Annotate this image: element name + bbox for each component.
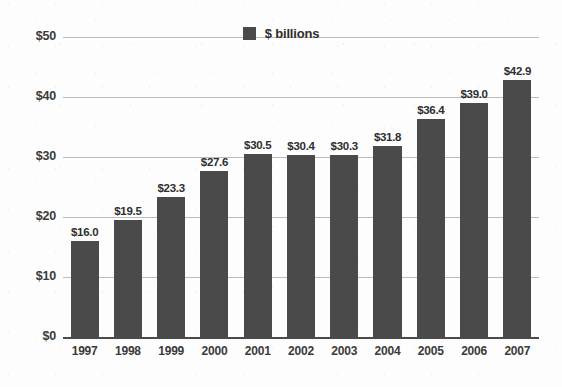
y-tick-label: $30 xyxy=(12,149,56,163)
x-tick-label: 2001 xyxy=(236,344,279,358)
bar[interactable] xyxy=(244,154,272,337)
bar-value-label: $30.4 xyxy=(287,140,314,152)
bar[interactable] xyxy=(200,171,228,337)
x-tick-label: 2000 xyxy=(193,344,236,358)
x-tick-label: 2007 xyxy=(496,344,539,358)
y-tick-label: $10 xyxy=(12,269,56,283)
bar-value-label: $42.9 xyxy=(504,65,531,77)
x-tick-label: 2003 xyxy=(323,344,366,358)
x-tick-label: 2006 xyxy=(452,344,495,358)
bar[interactable] xyxy=(71,241,99,337)
y-tick-label: $50 xyxy=(12,29,56,43)
bar-group[interactable]: $31.8 xyxy=(366,0,409,337)
x-axis: 1997199819992000200120022003200420052006… xyxy=(63,344,539,366)
bar-group[interactable]: $30.3 xyxy=(323,0,366,337)
x-tick-label: 2004 xyxy=(366,344,409,358)
bar-value-label: $23.3 xyxy=(158,182,185,194)
x-tick-label: 1998 xyxy=(106,344,149,358)
y-axis: $0$10$20$30$40$50 xyxy=(0,0,56,387)
bar[interactable] xyxy=(460,103,488,337)
bar[interactable] xyxy=(114,220,142,337)
bar-value-label: $19.5 xyxy=(114,205,141,217)
x-tick-label: 2002 xyxy=(279,344,322,358)
bar[interactable] xyxy=(157,197,185,337)
bars-layer: $16.0$19.5$23.3$27.6$30.5$30.4$30.3$31.8… xyxy=(63,0,539,337)
bar-value-label: $36.4 xyxy=(417,104,444,116)
bar-group[interactable]: $42.9 xyxy=(496,0,539,337)
bar-group[interactable]: $19.5 xyxy=(106,0,149,337)
x-tick-label: 1997 xyxy=(63,344,106,358)
bar[interactable] xyxy=(417,119,445,337)
y-tick-label: $40 xyxy=(12,89,56,103)
bar-value-label: $16.0 xyxy=(71,226,98,238)
bar-group[interactable]: $30.4 xyxy=(279,0,322,337)
bar[interactable] xyxy=(287,155,315,337)
bar-group[interactable]: $30.5 xyxy=(236,0,279,337)
bar-value-label: $27.6 xyxy=(201,156,228,168)
bar[interactable] xyxy=(330,155,358,337)
y-tick-label: $20 xyxy=(12,209,56,223)
axis-baseline xyxy=(63,337,539,339)
bar-group[interactable]: $36.4 xyxy=(409,0,452,337)
x-tick-label: 1999 xyxy=(150,344,193,358)
bar[interactable] xyxy=(373,146,401,337)
bar-value-label: $30.5 xyxy=(244,139,271,151)
bar-group[interactable]: $16.0 xyxy=(63,0,106,337)
bar-group[interactable]: $39.0 xyxy=(452,0,495,337)
bar-value-label: $30.3 xyxy=(331,140,358,152)
bar[interactable] xyxy=(503,80,531,337)
bar-value-label: $31.8 xyxy=(374,131,401,143)
bar-chart-figure: $0$10$20$30$40$50 $16.0$19.5$23.3$27.6$3… xyxy=(0,0,562,387)
x-tick-label: 2005 xyxy=(409,344,452,358)
y-tick-label: $0 xyxy=(12,329,56,343)
bar-value-label: $39.0 xyxy=(460,88,487,100)
bar-group[interactable]: $23.3 xyxy=(150,0,193,337)
bar-group[interactable]: $27.6 xyxy=(193,0,236,337)
